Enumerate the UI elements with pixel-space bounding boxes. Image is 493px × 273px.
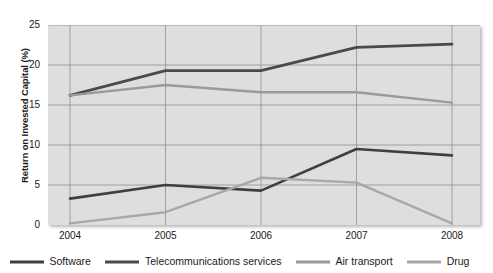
x-tick-label: 2007 <box>327 230 387 241</box>
legend-item-drug[interactable]: Drug <box>407 252 484 270</box>
legend-label: Telecommunications services <box>145 255 282 267</box>
legend-label: Air transport <box>336 255 393 267</box>
chart-figure: Return on Invested Capital (%) 051015202… <box>0 0 493 273</box>
y-tick-label: 15 <box>6 99 40 110</box>
legend-swatch-icon <box>105 252 139 270</box>
x-tick-label: 2004 <box>40 230 100 241</box>
x-tick-label: 2008 <box>422 230 482 241</box>
legend-swatch-icon <box>296 252 330 270</box>
legend-swatch-icon <box>10 252 44 270</box>
plot-svg <box>48 25 480 225</box>
y-tick-label: 0 <box>6 219 40 230</box>
x-tick-label: 2006 <box>231 230 291 241</box>
legend-label: Drug <box>447 255 470 267</box>
gridlines <box>48 25 480 225</box>
legend-label: Software <box>50 255 91 267</box>
legend-item-software[interactable]: Software <box>10 252 105 270</box>
plot-area <box>48 25 480 225</box>
x-tick-label: 2005 <box>136 230 196 241</box>
y-tick-label: 10 <box>6 139 40 150</box>
legend-item-air-transport[interactable]: Air transport <box>296 252 407 270</box>
chart-legend: SoftwareTelecommunications servicesAir t… <box>0 252 493 270</box>
y-tick-label: 5 <box>6 179 40 190</box>
legend-item-telecommunications-services[interactable]: Telecommunications services <box>105 252 296 270</box>
y-tick-label: 25 <box>6 19 40 30</box>
legend-swatch-icon <box>407 252 441 270</box>
y-tick-label: 20 <box>6 59 40 70</box>
